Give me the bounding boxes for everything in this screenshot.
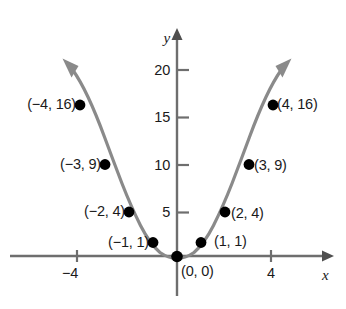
- y-tick-label-10: 10: [154, 158, 170, 173]
- parabola-graph-figure: y x 20 15 10 5 −4 4 (−4, 16) (−3, 9) (−2…: [0, 0, 346, 309]
- data-point: [148, 237, 159, 248]
- y-tick-label-15: 15: [154, 110, 170, 125]
- data-point: [75, 100, 86, 111]
- x-tick-label-4: 4: [267, 266, 275, 281]
- y-axis-arrow-icon: [172, 28, 183, 40]
- y-tick-label-20: 20: [154, 63, 170, 78]
- y-tick-label-5: 5: [162, 205, 170, 220]
- point-label-neg2-4: (−2, 4): [84, 204, 125, 219]
- point-label-neg4-16: (−4, 16): [27, 97, 76, 112]
- data-point: [100, 159, 111, 170]
- point-label-2-4: (2, 4): [231, 206, 264, 221]
- x-axis-label: x: [322, 268, 328, 283]
- point-label-1-1: (1, 1): [214, 234, 247, 249]
- plot-canvas: [0, 0, 346, 309]
- point-label-3-9: (3, 9): [254, 158, 287, 173]
- point-label-neg1-1: (−1, 1): [108, 235, 149, 250]
- y-axis-ticks: [177, 70, 189, 213]
- data-point: [196, 237, 207, 248]
- data-point: [171, 251, 183, 263]
- point-label-4-16: (4, 16): [277, 97, 318, 112]
- x-tick-label-neg4: −4: [62, 266, 78, 281]
- data-point: [244, 159, 255, 170]
- x-axis-arrow-icon: [322, 251, 334, 262]
- data-point: [220, 207, 231, 218]
- data-point: [124, 207, 135, 218]
- point-label-0-0: (0, 0): [181, 264, 214, 279]
- y-axis-label: y: [164, 31, 170, 46]
- point-label-neg3-9: (−3, 9): [60, 157, 101, 172]
